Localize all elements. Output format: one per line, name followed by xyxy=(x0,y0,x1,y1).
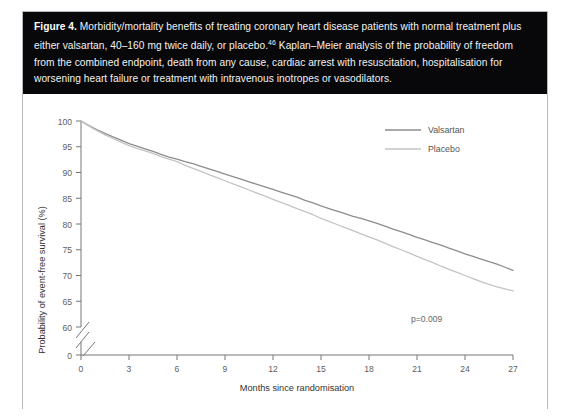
p-value-annotation: p=0.009 xyxy=(411,314,443,324)
x-tick-label-18: 18 xyxy=(364,364,374,374)
x-tick-label-12: 12 xyxy=(268,364,278,374)
y-axis-ticks: 100 95 90 85 80 75 70 65 60 0 xyxy=(58,117,81,361)
x-tick-label-6: 6 xyxy=(175,364,180,374)
chart-legend: Valsartan Placebo xyxy=(385,125,465,154)
y-tick-label-75: 75 xyxy=(62,245,72,255)
x-tick-label-24: 24 xyxy=(460,364,470,374)
legend-label-valsartan: Valsartan xyxy=(428,125,465,135)
x-axis-title: Months since randomisation xyxy=(240,383,354,393)
y-axis-title: Probability of event-free survival (%) xyxy=(37,206,47,354)
y-tick-label-70: 70 xyxy=(62,271,72,281)
y-tick-label-85: 85 xyxy=(62,194,72,204)
y-tick-label-95: 95 xyxy=(62,142,72,152)
y-tick-label-60: 60 xyxy=(62,323,72,333)
legend-label-placebo: Placebo xyxy=(428,144,460,154)
y-tick-label-100: 100 xyxy=(58,117,73,127)
y-tick-label-90: 90 xyxy=(62,168,72,178)
y-tick-label-0: 0 xyxy=(67,351,72,361)
figure-caption-text: Figure 4. Morbidity/mortality benefits o… xyxy=(34,19,536,87)
figure-number-label: Figure 4. xyxy=(34,21,77,32)
figure-caption-box: Figure 4. Morbidity/mortality benefits o… xyxy=(23,12,547,94)
y-tick-label-80: 80 xyxy=(62,220,72,230)
chart-axes xyxy=(76,121,513,356)
y-tick-label-65: 65 xyxy=(62,297,72,307)
x-tick-label-27: 27 xyxy=(508,364,518,374)
x-tick-label-0: 0 xyxy=(79,364,84,374)
figure-container: Figure 4. Morbidity/mortality benefits o… xyxy=(22,11,548,409)
kaplan-meier-chart: Probability of event-free survival (%) xyxy=(23,94,547,410)
x-tick-label-15: 15 xyxy=(316,364,326,374)
figure-caption-reference: 46 xyxy=(268,39,276,46)
x-axis-ticks: 0 3 6 9 12 15 18 21 24 27 xyxy=(79,355,518,374)
chart-plot-area: Probability of event-free survival (%) xyxy=(23,94,547,410)
x-tick-label-9: 9 xyxy=(223,364,228,374)
x-tick-label-21: 21 xyxy=(412,364,422,374)
x-tick-label-3: 3 xyxy=(127,364,132,374)
